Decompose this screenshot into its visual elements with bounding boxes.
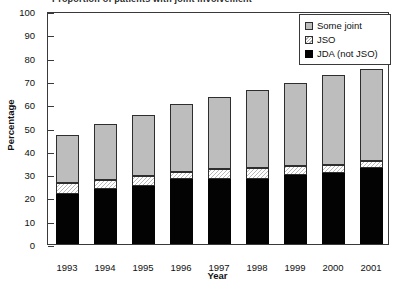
- bar-segment-some-joint: [284, 83, 307, 166]
- legend-label-some-joint: Some joint: [317, 20, 362, 31]
- bar-segment-jda: [284, 175, 307, 244]
- bar-segment-some-joint: [56, 135, 79, 184]
- y-axis-tick-label: 50: [7, 124, 35, 135]
- bar-segment-jso: [56, 183, 79, 193]
- y-axis-tick: [48, 13, 54, 14]
- bar-1994: [94, 11, 117, 244]
- legend-item-jso: JSO: [305, 33, 386, 46]
- y-axis-tick: [48, 130, 54, 131]
- y-axis-tick-label: 20: [7, 193, 35, 204]
- bar-segment-some-joint: [360, 69, 383, 161]
- bar-segment-jso: [284, 166, 307, 175]
- y-axis-tick-label: 60: [7, 100, 35, 111]
- bar-segment-some-joint: [246, 90, 269, 168]
- legend-item-jda: JDA (not JSO): [305, 47, 386, 60]
- bar-segment-jda: [360, 168, 383, 244]
- chart-figure: Proportion of patients with joint involv…: [0, 0, 399, 292]
- gray-swatch-icon: [305, 22, 313, 30]
- bar-segment-jda: [246, 179, 269, 244]
- legend-label-jda: JDA (not JSO): [317, 48, 378, 59]
- y-axis-tick-label: 80: [7, 54, 35, 65]
- bar-segment-some-joint: [94, 124, 117, 180]
- y-axis-tick-label: 40: [7, 147, 35, 158]
- bar-segment-jda: [208, 179, 231, 244]
- bar-segment-some-joint: [322, 75, 345, 165]
- bar-segment-jso: [322, 165, 345, 173]
- y-axis-tick: [48, 153, 54, 154]
- y-axis-tick: [48, 36, 54, 37]
- y-axis-tick: [48, 83, 54, 84]
- y-axis-tick-label: 30: [7, 170, 35, 181]
- x-axis-tick-label: 2001: [349, 262, 393, 273]
- legend-label-jso: JSO: [317, 34, 335, 45]
- black-swatch-icon: [305, 50, 313, 58]
- y-axis-tick-label: 10: [7, 217, 35, 228]
- y-axis-tick: [48, 60, 54, 61]
- y-axis-tick-label: 100: [7, 7, 35, 18]
- bar-segment-jda: [170, 179, 193, 244]
- bar-1995: [132, 11, 155, 244]
- y-axis-tick: [48, 223, 54, 224]
- bar-1993: [56, 11, 79, 244]
- bar-1997: [208, 11, 231, 244]
- clipped-chart-title: Proportion of patients with joint involv…: [52, 0, 352, 4]
- bar-segment-jda: [56, 194, 79, 244]
- legend-item-some-joint: Some joint: [305, 19, 386, 32]
- bar-segment-jso: [208, 169, 231, 178]
- y-axis-tick-label: 0: [7, 240, 35, 251]
- bar-segment-some-joint: [132, 115, 155, 177]
- bar-segment-jso: [246, 168, 269, 178]
- y-axis-tick: [48, 176, 54, 177]
- hatched-swatch-icon: [305, 36, 313, 44]
- y-axis-tick-label: 90: [7, 30, 35, 41]
- bar-segment-some-joint: [208, 97, 231, 169]
- y-axis-tick: [48, 106, 54, 107]
- y-axis-tick-label: 70: [7, 77, 35, 88]
- bar-segment-jso: [94, 180, 117, 189]
- bar-1996: [170, 11, 193, 244]
- bar-segment-jda: [132, 186, 155, 244]
- bar-segment-some-joint: [170, 104, 193, 172]
- bar-segment-jso: [132, 176, 155, 185]
- bar-1998: [246, 11, 269, 244]
- bar-segment-jso: [360, 161, 383, 168]
- bar-segment-jda: [322, 173, 345, 244]
- y-axis-tick: [48, 199, 54, 200]
- chart-legend: Some joint JSO JDA (not JSO): [299, 14, 391, 65]
- y-axis-tick: [48, 246, 54, 247]
- bar-segment-jda: [94, 189, 117, 244]
- bar-segment-jso: [170, 172, 193, 179]
